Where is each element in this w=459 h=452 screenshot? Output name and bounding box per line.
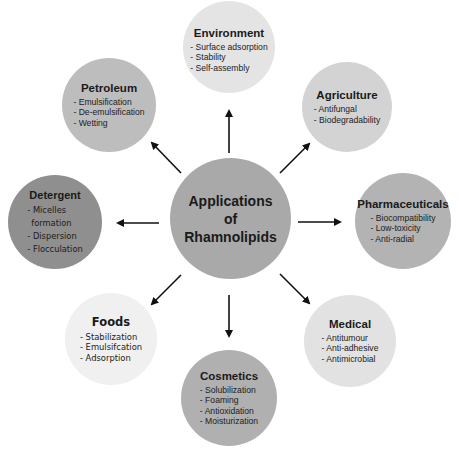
node-item: formation <box>31 217 82 230</box>
node-title: Petroleum <box>81 82 137 94</box>
node-item: - Dispersion <box>27 230 82 243</box>
node-item: - Surface adsorption <box>190 42 267 53</box>
arrow-to-foods <box>152 275 181 304</box>
node-item: - Flocculation <box>27 243 82 256</box>
center-node: Applications of Rhamnolipids <box>170 158 291 279</box>
node-title: Pharmaceuticals <box>357 198 448 210</box>
node-medical: Medical - Antitumour - Anti-adhesive - A… <box>304 295 396 387</box>
node-title: Medical <box>329 318 371 330</box>
arrow-to-medical <box>280 274 309 303</box>
node-item: - Low-toxicity <box>371 223 436 234</box>
node-item: - Adsorption <box>80 353 142 364</box>
node-title: Environment <box>194 27 264 39</box>
node-item: - Foaming <box>200 395 258 406</box>
node-item: - Biodegradability <box>314 115 380 126</box>
node-item: - Moisturization <box>200 416 258 427</box>
node-agriculture: Agriculture - Antifungal - Biodegradabil… <box>302 62 392 152</box>
node-item: - Anti-radial <box>371 234 436 245</box>
node-item: - Stability <box>190 52 267 63</box>
arrow-to-agriculture <box>280 144 309 173</box>
node-foods: Foods - Stabilization - Emulsifcation - … <box>65 293 157 385</box>
node-title: Cosmetics <box>200 370 258 382</box>
node-item: - Wetting <box>73 118 144 129</box>
node-item: - Antifungal <box>314 104 380 115</box>
node-item: - Emulsifcation <box>80 342 142 353</box>
node-detergent: Detergent - Micelles formation - Dispers… <box>8 175 102 269</box>
node-item: - Micelles <box>27 204 82 217</box>
node-title: Agriculture <box>316 89 377 101</box>
arrow-to-petroleum <box>152 143 181 173</box>
node-title: Foods <box>92 315 130 329</box>
node-item: - Antioxidation <box>200 406 258 417</box>
node-environment: Environment - Surface adsorption - Stabi… <box>183 1 275 93</box>
node-item: - Biocompatibility <box>371 213 436 224</box>
node-item: - Emulsification <box>73 97 144 108</box>
node-item: - Antitumour <box>322 333 379 344</box>
node-item: - De-emulsification <box>73 107 144 118</box>
node-item: - Solubilization <box>200 385 258 396</box>
center-title-line1: Applications <box>188 192 272 210</box>
node-item: - Self-assembly <box>190 63 267 74</box>
node-cosmetics: Cosmetics - Solubilization - Foaming - A… <box>181 350 277 446</box>
node-title: Detergent <box>29 189 80 201</box>
node-pharmaceuticals: Pharmaceuticals - Biocompatibility - Low… <box>355 173 451 269</box>
center-title-line3: Rhamnolipids <box>184 228 277 246</box>
node-item: - Anti-adhesive <box>322 343 379 354</box>
node-petroleum: Petroleum - Emulsification - De-emulsifi… <box>62 58 156 152</box>
center-title-line2: of <box>224 210 237 228</box>
node-item: - Antimicrobial <box>322 354 379 365</box>
node-item: - Stabilization <box>80 332 142 343</box>
